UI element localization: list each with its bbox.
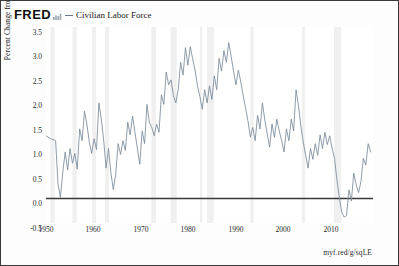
legend-line-marker	[65, 15, 73, 16]
y-tick-label: 1.0	[18, 151, 42, 159]
recession-band	[151, 27, 156, 223]
plot-area	[46, 27, 373, 223]
recession-band	[334, 27, 341, 223]
x-tick-label: 1970	[124, 226, 158, 234]
x-tick-label: 1990	[219, 226, 253, 234]
fred-logo: FRED	[14, 8, 51, 21]
y-tick-label: 2.0	[18, 102, 42, 110]
y-tick-label: 3.0	[18, 53, 42, 61]
x-tick-label: 1980	[171, 226, 205, 234]
recession-band	[250, 27, 253, 223]
chart-header: FRED Civilian Labor Force	[1, 1, 398, 25]
recession-band	[302, 27, 305, 223]
y-tick-label: 0.0	[18, 200, 42, 208]
recession-band	[50, 27, 54, 223]
x-tick-label: 2000	[266, 226, 300, 234]
recession-band	[171, 27, 177, 223]
y-tick-label: 1.5	[18, 127, 42, 135]
sparkline-icon	[53, 13, 62, 20]
y-axis-title: Percent Change from Year Ago	[3, 0, 15, 77]
source-url: myf.red/g/sqLE	[323, 248, 372, 257]
recession-band	[92, 27, 96, 223]
recession-band	[200, 27, 202, 223]
legend-item-label: Civilian Labor Force	[76, 10, 151, 20]
y-tick-label: 0.5	[18, 176, 42, 184]
chart-canvas	[46, 27, 373, 223]
recession-band	[105, 27, 109, 223]
x-tick-label: 1960	[76, 226, 110, 234]
y-tick-label: 3.5	[18, 29, 42, 37]
recession-band	[207, 27, 214, 223]
fred-chart-screenshot: FRED Civilian Labor Force Percent Change…	[0, 0, 399, 266]
x-tick-label: 1950	[29, 226, 63, 234]
x-tick-label: 2010	[314, 226, 348, 234]
chart-legend: Civilian Labor Force	[65, 9, 151, 21]
y-tick-label: 2.5	[18, 78, 42, 86]
recession-band	[72, 27, 76, 223]
